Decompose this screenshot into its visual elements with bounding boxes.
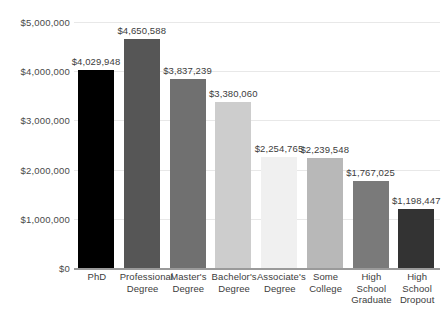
y-tick-label: $1,000,000: [20, 213, 70, 224]
x-axis-label: PhD: [74, 271, 120, 283]
x-axis-label: SomeCollege: [303, 271, 349, 294]
bar-group: $3,837,239: [166, 0, 210, 268]
y-tick-label: $5,000,000: [20, 17, 70, 28]
x-axis-label-line: School: [394, 283, 440, 295]
bar-group: $4,650,588: [120, 0, 164, 268]
x-axis-label: HighSchoolDropout: [394, 271, 440, 306]
x-axis-label-line: Associate's: [257, 271, 303, 283]
x-axis-label-line: Some: [303, 271, 349, 283]
bar[interactable]: [124, 39, 160, 268]
bar-value-label: $3,380,060: [209, 88, 258, 99]
bar-value-label: $4,650,588: [117, 25, 166, 36]
x-axis-label-line: Degree: [211, 283, 257, 295]
bar-value-label: $2,254,765: [255, 143, 304, 154]
x-axis-label-line: Bachelor's: [211, 271, 257, 283]
x-axis-label: Master'sDegree: [165, 271, 211, 294]
x-axis-label-line: High: [394, 271, 440, 283]
bar-value-label: $2,239,548: [300, 144, 349, 155]
x-axis-label-line: Degree: [120, 283, 166, 295]
bars-layer: $4,029,948$4,650,588$3,837,239$3,380,060…: [74, 0, 440, 268]
bar-group: $2,254,765: [257, 0, 301, 268]
bar-group: $1,767,025: [349, 0, 393, 268]
bar[interactable]: [353, 181, 389, 268]
bar-group: $2,239,548: [303, 0, 347, 268]
x-axis-label-line: Dropout: [394, 294, 440, 306]
bar-value-label: $1,767,025: [346, 167, 395, 178]
x-axis-label: Associate'sDegree: [257, 271, 303, 294]
bar[interactable]: [78, 70, 114, 268]
bar-group: $3,380,060: [211, 0, 255, 268]
bar-value-label: $4,029,948: [72, 56, 121, 67]
x-axis-label-line: College: [303, 283, 349, 295]
y-axis: $5,000,000 $4,000,000 $3,000,000 $2,000,…: [0, 0, 74, 317]
x-axis-label-line: Graduate: [348, 294, 394, 306]
bar-chart: $5,000,000 $4,000,000 $3,000,000 $2,000,…: [0, 0, 443, 317]
bar-group: $4,029,948: [74, 0, 118, 268]
y-tick-label: $3,000,000: [20, 115, 70, 126]
x-axis-label: HighSchoolGraduate: [348, 271, 394, 306]
bar-group: $1,198,447: [394, 0, 438, 268]
x-axis-label-line: PhD: [74, 271, 120, 283]
x-axis-label-line: High: [348, 271, 394, 283]
bar-value-label: $3,837,239: [163, 65, 212, 76]
bar-value-label: $1,198,447: [392, 195, 441, 206]
bar[interactable]: [398, 209, 434, 268]
y-tick-label: $0: [59, 263, 70, 274]
x-axis-baseline: [74, 268, 440, 270]
x-axis-label-line: Degree: [165, 283, 211, 295]
x-axis-label-line: Degree: [257, 283, 303, 295]
y-tick-label: $4,000,000: [20, 66, 70, 77]
bar[interactable]: [307, 158, 343, 268]
x-axis-label: ProfessionalDegree: [120, 271, 166, 294]
x-axis-label-line: School: [348, 283, 394, 295]
x-axis-label-line: Professional: [120, 271, 166, 283]
x-axis-label: Bachelor'sDegree: [211, 271, 257, 294]
bar[interactable]: [170, 79, 206, 268]
bar[interactable]: [261, 157, 297, 268]
y-tick-label: $2,000,000: [20, 164, 70, 175]
x-axis-label-line: Master's: [165, 271, 211, 283]
x-axis: PhDProfessionalDegreeMaster'sDegreeBache…: [74, 271, 440, 317]
bar[interactable]: [215, 102, 251, 268]
